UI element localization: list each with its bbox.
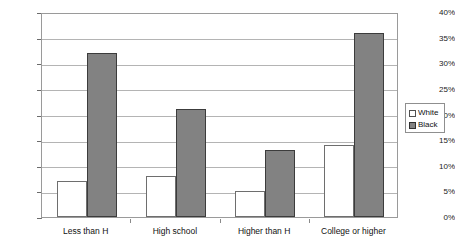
- legend-swatch-white-icon: [409, 110, 416, 117]
- y-axis-tick-label: 10%: [422, 163, 455, 171]
- legend-item-white: White: [409, 107, 442, 119]
- bar-black-3: [354, 33, 384, 218]
- y-axis-tick-label: 5%: [422, 188, 455, 196]
- y-axis-tick-label: 40%: [422, 9, 455, 17]
- x-axis-category-label: Higher than H: [220, 226, 309, 236]
- bar-white-0: [57, 181, 87, 217]
- x-axis-tick-mark: [309, 219, 310, 223]
- y-axis-tick-mark: [37, 192, 41, 193]
- bar-black-2: [265, 150, 295, 217]
- y-axis-tick-label: 35%: [422, 35, 455, 43]
- y-axis-tick-mark: [37, 39, 41, 40]
- y-axis-tick-label: 15%: [422, 137, 455, 145]
- gridline: [42, 39, 397, 40]
- x-axis-category-label: High school: [130, 226, 219, 236]
- x-axis-category-label: Less than H: [41, 226, 130, 236]
- bar-white-3: [324, 145, 354, 217]
- bar-white-2: [235, 191, 265, 217]
- legend: White Black: [405, 103, 445, 133]
- bar-chart: 40%35%30%25%20%15%10%5%0% Less than HHig…: [0, 0, 455, 250]
- x-axis-category-label: College or higher: [309, 226, 398, 236]
- bar-black-1: [176, 109, 206, 217]
- legend-swatch-black-icon: [409, 122, 416, 129]
- legend-item-black: Black: [409, 119, 442, 131]
- y-axis-tick-mark: [37, 218, 41, 219]
- y-axis-tick-label: 30%: [422, 60, 455, 68]
- y-axis-tick-mark: [37, 13, 41, 14]
- y-axis-tick-label: 25%: [422, 86, 455, 94]
- bar-white-1: [146, 176, 176, 217]
- x-axis-tick-mark: [130, 219, 131, 223]
- y-axis-tick-mark: [37, 90, 41, 91]
- y-axis-tick-mark: [37, 116, 41, 117]
- y-axis-tick-label: 0%: [422, 214, 455, 222]
- bar-black-0: [87, 53, 117, 217]
- y-axis-tick-mark: [37, 141, 41, 142]
- x-axis-tick-mark: [220, 219, 221, 223]
- legend-label-white: White: [418, 109, 438, 117]
- legend-label-black: Black: [418, 121, 438, 129]
- plot-area: [41, 13, 398, 218]
- y-axis-tick-mark: [37, 64, 41, 65]
- y-axis-tick-mark: [37, 167, 41, 168]
